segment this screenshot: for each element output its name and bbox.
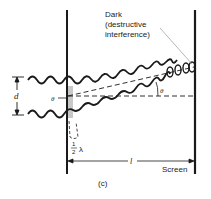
label-theta-left: θ: [51, 95, 55, 103]
half-lambda-numerator: 1: [72, 141, 76, 147]
slit-shade: [68, 86, 73, 118]
angle-ray: [68, 67, 194, 96]
label-d: d: [14, 91, 19, 101]
label-l: l: [130, 157, 133, 166]
interference-loops: [167, 62, 195, 77]
annotation-line-2: (destructive: [105, 20, 147, 29]
annotation-line-1: Dark: [105, 10, 123, 19]
annotation-line-3: interference): [105, 30, 150, 39]
figure-caption: (c): [98, 179, 108, 188]
angle-arc-right: [156, 82, 158, 96]
label-theta-right: θ: [160, 87, 164, 95]
double-slit-diagram: Dark (destructive interference) d θ θ 1 …: [0, 0, 211, 199]
annotation-leader: [160, 28, 192, 64]
half-lambda-denominator: 2: [72, 149, 76, 155]
half-lambda-symbol: λ: [79, 145, 83, 154]
half-wavelength-bracket: [69, 121, 78, 139]
label-screen: Screen: [162, 165, 187, 174]
